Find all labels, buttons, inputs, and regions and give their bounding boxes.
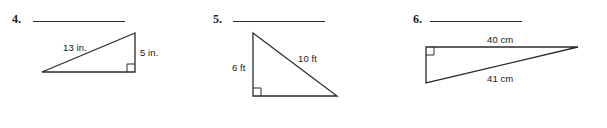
- worksheet-page: 4. 13 in. 5 in. 5. 6 ft 10 ft 6.: [0, 0, 607, 128]
- problem-6: 6. 40 cm 41 cm: [403, 0, 607, 128]
- problem-5: 5. 6 ft 10 ft: [203, 0, 403, 128]
- hypotenuse-label-4: 13 in.: [63, 43, 87, 53]
- leg-label-4: 5 in.: [140, 48, 158, 58]
- problem-4: 4. 13 in. 5 in.: [0, 0, 203, 128]
- hypotenuse-label-6: 41 cm: [487, 74, 513, 84]
- leg-label-6: 40 cm: [487, 35, 513, 45]
- triangle-svg-4: [0, 0, 203, 128]
- right-angle-marker-5: [253, 88, 261, 96]
- triangle-outline-4: [42, 33, 135, 72]
- triangle-figure-6: [403, 0, 607, 128]
- right-angle-marker-4: [127, 64, 135, 72]
- leg-label-5: 6 ft: [232, 63, 246, 73]
- right-angle-marker-6: [426, 47, 434, 55]
- triangle-figure-4: [0, 0, 203, 128]
- hypotenuse-label-5: 10 ft: [298, 54, 317, 64]
- triangle-svg-6: [403, 0, 607, 128]
- triangle-outline-5: [253, 33, 337, 96]
